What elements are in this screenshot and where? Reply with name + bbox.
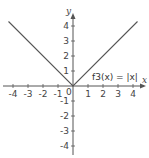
y-tick-label: -4 [60,141,69,151]
x-axis-label: x [142,75,147,85]
function-graph: -4-3-2-11234-4-3-2-11234 y x f3(x) = |x|… [0,0,149,158]
x-tick-label: 4 [130,89,136,99]
x-tick-label: -4 [9,89,18,99]
y-tick-label: -2 [60,111,69,121]
y-tick-label: 1 [63,66,69,76]
y-tick-label: -1 [60,96,69,106]
x-tick-label: -2 [39,89,48,99]
x-tick-label: 1 [85,89,91,99]
y-axis-arrow-icon [71,13,76,19]
y-tick-label: 4 [63,21,69,31]
x-tick-label: -3 [24,89,33,99]
y-tick-label: -3 [60,126,69,136]
y-axis-label: y [65,6,72,16]
x-tick-label: 3 [115,89,121,99]
y-tick-label: 2 [63,51,69,61]
origin-label: 0 [66,87,72,97]
x-tick-label: 2 [100,89,106,99]
function-label: f3(x) = |x| [92,72,138,82]
y-tick-label: 3 [63,36,69,46]
